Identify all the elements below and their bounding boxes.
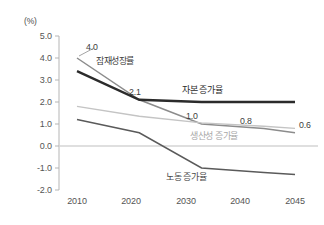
data-label-2020-potential: 2.1 (129, 87, 141, 97)
y-axis-ticks (55, 36, 59, 190)
chart-screenshot: (%) 5.0 4.0 3.0 2.0 1.0 0.0 -1.0 -2.0 20… (0, 0, 324, 225)
data-label-2030-potential: 1.0 (186, 111, 198, 121)
series-annotation-potential-growth: 잠재성장률 (96, 54, 134, 67)
series-annotation-labor-growth: 노동 증가율 (166, 170, 206, 183)
series-annotation-capital-growth: 자본 증가율 (182, 83, 222, 96)
data-label-2010-potential: 4.0 (86, 42, 98, 52)
data-label-2040-potential: 0.8 (240, 116, 252, 126)
plot-area (0, 0, 324, 225)
series-annotation-productivity-growth: 생산성 증가율 (190, 129, 238, 142)
data-label-2045-potential: 0.6 (299, 120, 311, 130)
